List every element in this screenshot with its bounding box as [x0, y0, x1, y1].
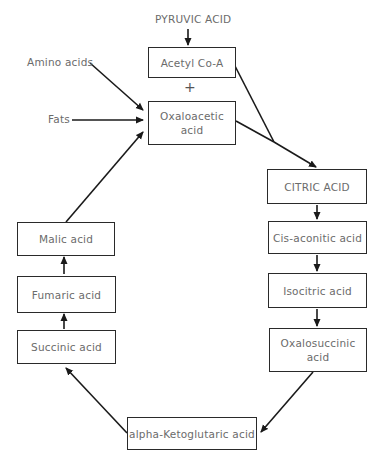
node-fumaric-label: Fumaric acid [32, 288, 101, 302]
arrow-ketoglutaric-to-succinic [66, 368, 127, 433]
node-alpha-ketoglutaric-label: alpha-Ketoglutaric acid [129, 427, 255, 441]
krebs-cycle-diagram: PYRUVIC ACID Amino acids Fats + Acetyl C… [0, 0, 385, 465]
node-oxaloacetic-acid: Oxaloacetic acid [148, 101, 236, 145]
node-cis-aconitic-acid: Cis-aconitic acid [268, 221, 367, 254]
node-oxalosuccinic-acid: Oxalosuccinic acid [269, 328, 367, 372]
node-malic-acid: Malic acid [17, 222, 115, 256]
node-oxalosuccinic-label-line1: Oxalosuccinic [281, 336, 356, 350]
node-cis-aconitic-label: Cis-aconitic acid [273, 231, 362, 245]
input-fats: Fats [48, 113, 70, 125]
node-oxaloacetic-label-line2: acid [181, 123, 204, 137]
node-citric-acid: CITRIC ACID [267, 169, 367, 204]
node-isocitric-acid: Isocitric acid [268, 273, 367, 308]
node-citric-label: CITRIC ACID [284, 180, 350, 194]
node-malic-label: Malic acid [39, 232, 93, 246]
arrow-amino-to-oxaloacetic [90, 63, 143, 110]
node-oxaloacetic-label-line1: Oxaloacetic [160, 109, 224, 123]
plus-sign: + [184, 79, 196, 95]
node-acetyl-coa-label: Acetyl Co-A [161, 56, 224, 70]
arrow-junction-to-citric [274, 142, 316, 167]
node-isocitric-label: Isocitric acid [283, 284, 352, 298]
node-fumaric-acid: Fumaric acid [17, 276, 116, 313]
node-succinic-acid: Succinic acid [17, 330, 116, 364]
node-acetyl-coa: Acetyl Co-A [148, 47, 236, 78]
node-succinic-label: Succinic acid [31, 340, 102, 354]
node-alpha-ketoglutaric-acid: alpha-Ketoglutaric acid [127, 417, 257, 450]
arrow-oxalosuccinic-to-ketoglutaric [261, 372, 313, 432]
arrow-malic-to-oxaloacetic [66, 132, 143, 222]
node-oxalosuccinic-label-line2: acid [307, 350, 330, 364]
input-amino-acids: Amino acids [27, 56, 93, 68]
input-pyruvic-acid: PYRUVIC ACID [155, 13, 231, 25]
